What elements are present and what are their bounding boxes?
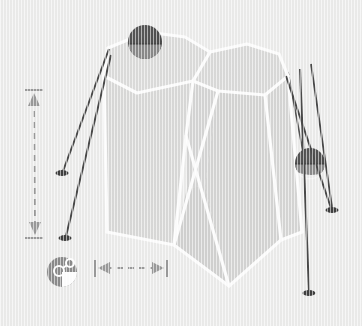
horizontal-dimension-arrowhead-right: [152, 262, 164, 274]
vertical-dimension-dashed-line: [34, 100, 35, 228]
leg-left-lower-foot: [59, 235, 72, 241]
horizontal-dimension-arrow: [95, 260, 167, 277]
polyhedron-scene: [0, 0, 362, 326]
badge-wedge-icon: [62, 272, 77, 287]
vertical-dimension-arrow: [25, 90, 43, 238]
horizontal-dimension-arrowhead-left: [98, 262, 110, 274]
leg-right-long: [300, 69, 309, 291]
leg-right-far: [311, 64, 332, 207]
leg-right-outer-foot: [326, 207, 339, 213]
vertical-dimension-arrowhead-down: [29, 222, 41, 235]
diagram-canvas: [0, 0, 362, 326]
leg-left-upper-foot: [56, 170, 69, 176]
vertical-dimension-arrowhead-up: [28, 93, 40, 106]
measurement-badge-icon[interactable]: [47, 257, 77, 287]
leg-right-long-foot: [303, 290, 316, 296]
